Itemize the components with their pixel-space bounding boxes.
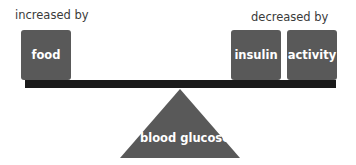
insulin-label: insulin xyxy=(234,48,277,62)
food-box: food xyxy=(21,30,71,80)
blood-glucose-label: blood glucose xyxy=(140,131,230,145)
insulin-box: insulin xyxy=(231,30,281,80)
decreased-by-label: decreased by xyxy=(251,10,328,24)
balance-beam xyxy=(25,80,336,88)
food-label: food xyxy=(31,48,60,62)
activity-box: activity xyxy=(287,30,337,80)
increased-by-label: increased by xyxy=(15,8,89,22)
activity-label: activity xyxy=(288,48,336,62)
fulcrum-triangle xyxy=(118,88,242,160)
